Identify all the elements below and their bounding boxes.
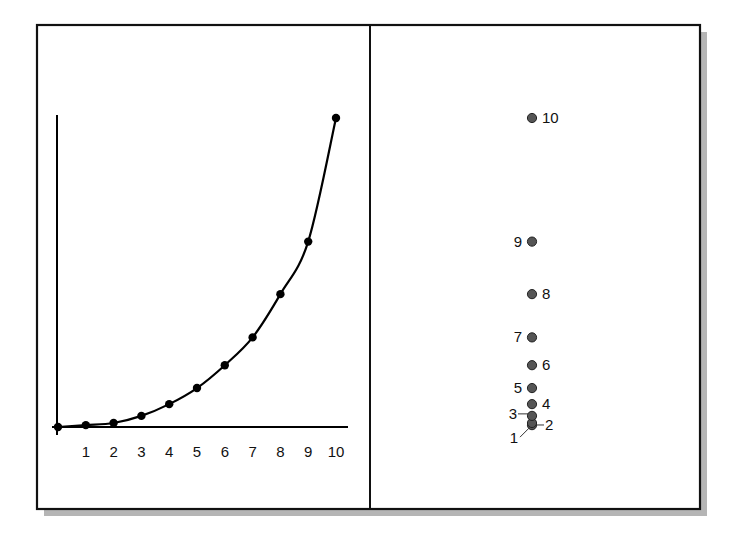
curve-marker xyxy=(165,400,173,408)
outer-frame xyxy=(37,25,700,509)
point-label: 10 xyxy=(542,109,559,126)
curve-marker xyxy=(276,290,284,298)
point-label: 4 xyxy=(542,395,550,412)
x-tick-label: 2 xyxy=(109,443,117,460)
point-label: 7 xyxy=(514,328,522,345)
figure-svg: 12345678910 12345678910 xyxy=(0,0,743,543)
point-marker xyxy=(527,400,536,409)
x-tick-label: 7 xyxy=(248,443,256,460)
curve-marker xyxy=(193,384,201,392)
x-tick-label: 1 xyxy=(82,443,90,460)
x-tick-label: 9 xyxy=(304,443,312,460)
x-tick-label: 6 xyxy=(221,443,229,460)
point-label: 9 xyxy=(514,233,522,250)
curve-marker xyxy=(332,114,340,122)
point-label: 3 xyxy=(509,405,517,422)
x-tick-label: 8 xyxy=(276,443,284,460)
curve-marker xyxy=(248,333,256,341)
point-marker xyxy=(527,333,536,342)
curve-marker xyxy=(221,361,229,369)
point-label: 5 xyxy=(514,379,522,396)
point-marker xyxy=(527,361,536,370)
point-marker xyxy=(527,411,536,420)
point-label: 2 xyxy=(545,416,553,433)
point-label: 6 xyxy=(542,356,550,373)
point-label: 8 xyxy=(542,285,550,302)
x-tick-label: 10 xyxy=(328,443,345,460)
point-marker xyxy=(527,290,536,299)
x-tick-label: 5 xyxy=(193,443,201,460)
point-marker xyxy=(527,237,536,246)
x-tick-label: 3 xyxy=(137,443,145,460)
curve-marker xyxy=(109,419,117,427)
x-tick-label: 4 xyxy=(165,443,173,460)
curve-marker xyxy=(304,237,312,245)
figure: 12345678910 12345678910 xyxy=(0,0,743,543)
point-label: 1 xyxy=(510,429,518,446)
curve-marker xyxy=(54,423,62,431)
curve-marker xyxy=(82,421,90,429)
point-marker xyxy=(527,383,536,392)
point-marker xyxy=(527,113,536,122)
curve-marker xyxy=(137,412,145,420)
